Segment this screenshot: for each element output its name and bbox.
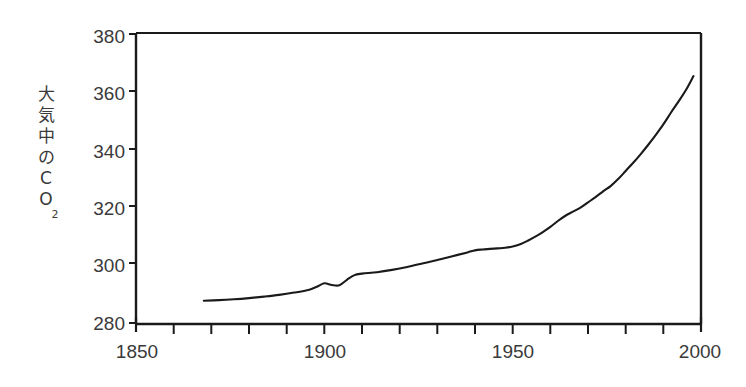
y-axis-title-char-4: C (40, 168, 52, 188)
y-tick-label-380: 380 (93, 26, 125, 47)
co2-series-line (204, 76, 694, 301)
y-tick-label-320: 320 (93, 198, 125, 219)
plot-frame (136, 33, 701, 324)
y-axis-title-char-0: 大 (38, 84, 55, 104)
x-tick-label-1900: 1900 (304, 341, 346, 362)
y-axis-title-char-5: O (39, 189, 52, 209)
y-axis-title-subscript: 2 (52, 208, 59, 221)
y-tick-label-360: 360 (93, 83, 125, 104)
y-axis-title-char-3: の (38, 147, 55, 167)
x-tick-label-1950: 1950 (492, 341, 534, 362)
y-axis-title-char-1: 気 (38, 105, 55, 125)
y-tick-label-340: 340 (93, 141, 125, 162)
x-tick-label-2000: 2000 (679, 341, 721, 362)
y-axis-title: 大 気 中 の C O 2 (38, 84, 59, 221)
x-tick-labels: 1850 1900 1950 2000 (116, 341, 721, 362)
x-tick-label-1850: 1850 (116, 341, 158, 362)
co2-line-chart: 大 気 中 の C O 2 380 360 340 320 300 280 (0, 0, 746, 387)
x-axis-ticks (136, 317, 701, 334)
y-tick-label-280: 280 (93, 313, 125, 334)
chart-figure: 大 気 中 の C O 2 380 360 340 320 300 280 (0, 0, 746, 387)
y-tick-labels: 380 360 340 320 300 280 (93, 26, 125, 334)
y-tick-label-300: 300 (93, 255, 125, 276)
y-axis-title-char-2: 中 (38, 126, 55, 146)
